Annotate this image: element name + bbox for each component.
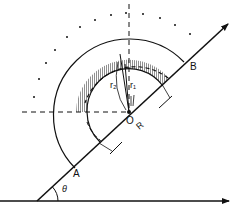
label-origin: O <box>126 115 134 126</box>
dimension-line-lower <box>99 143 112 151</box>
angle-arc <box>53 187 59 201</box>
label-radius-R: R <box>134 119 146 131</box>
label-a: A <box>73 168 80 179</box>
dimension-tick-lower <box>110 142 122 154</box>
label-r1: r₁ <box>130 80 136 90</box>
origin-point <box>127 110 131 114</box>
label-r2: r₂ <box>110 80 117 90</box>
r1-tick-2 <box>133 95 134 106</box>
dimension-line-upper <box>163 86 170 98</box>
incline-line <box>37 24 228 201</box>
diagram-canvas: A B O R r₂ r₁ θ <box>0 0 232 205</box>
label-b: B <box>190 61 197 72</box>
label-theta: θ <box>62 184 67 194</box>
